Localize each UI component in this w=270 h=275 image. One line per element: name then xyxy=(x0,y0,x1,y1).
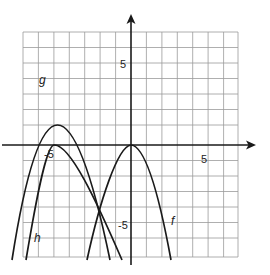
x-tick-neg5: -5 xyxy=(44,148,54,160)
y-tick-neg5: -5 xyxy=(118,219,128,231)
coordinate-plane: -5 5 5 -5 g h f xyxy=(0,0,270,275)
label-h: h xyxy=(34,231,41,245)
y-tick-5: 5 xyxy=(120,58,126,70)
label-f: f xyxy=(171,214,176,228)
label-g: g xyxy=(39,73,46,87)
curve-f xyxy=(87,145,171,260)
x-tick-5: 5 xyxy=(201,153,207,165)
